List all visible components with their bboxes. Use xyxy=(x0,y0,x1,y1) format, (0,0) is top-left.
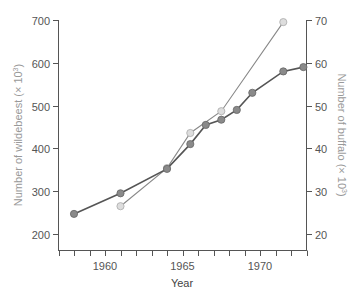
buffalo-marker xyxy=(187,129,194,136)
axes xyxy=(58,20,307,251)
y-left-tick-label: 500 xyxy=(32,101,50,113)
y-left-tick-label: 600 xyxy=(32,58,50,70)
y-left-tick-label: 400 xyxy=(32,143,50,155)
x-ticks: 196019651970 xyxy=(60,251,308,273)
wildebeest-marker xyxy=(249,89,256,96)
x-tick-label: 1960 xyxy=(93,260,117,272)
y-right-tick-label: 60 xyxy=(315,58,327,70)
wildebeest-marker xyxy=(187,141,194,148)
y-left-tick-label: 200 xyxy=(32,229,50,241)
wildebeest-marker xyxy=(202,121,209,128)
y-right-tick-label: 50 xyxy=(315,101,327,113)
wildebeest-marker xyxy=(70,210,77,217)
x-tick-label: 1970 xyxy=(248,260,272,272)
y-left-axis-title: Number of wildebeest (× 103) xyxy=(12,64,24,206)
wildebeest-marker xyxy=(300,64,307,71)
buffalo-line xyxy=(121,22,284,206)
y-right-axis-title-close: ) xyxy=(336,193,348,197)
series-layer xyxy=(70,19,307,218)
y-right-tick-label: 70 xyxy=(315,15,327,27)
y-right-axis-title: Number of buffalo (× 103) xyxy=(336,73,348,196)
y-left-ticks: 200300400500600700 xyxy=(32,15,59,241)
y-right-tick-label: 20 xyxy=(315,229,327,241)
y-right-tick-label: 40 xyxy=(315,143,327,155)
y-left-tick-label: 300 xyxy=(32,186,50,198)
wildebeest-marker xyxy=(218,116,225,123)
wildebeest-marker xyxy=(163,165,170,172)
series-wildebeest xyxy=(70,64,307,218)
y-left-tick-label: 700 xyxy=(32,15,50,27)
y-right-axis-title-main: Number of buffalo (× 10 xyxy=(336,73,348,189)
population-chart: 196019651970 200300400500600700 20304050… xyxy=(0,0,356,296)
y-right-ticks: 203040506070 xyxy=(307,15,328,241)
y-left-axis-title-close: ) xyxy=(12,64,24,68)
wildebeest-marker xyxy=(233,106,240,113)
wildebeest-marker xyxy=(280,68,287,75)
buffalo-marker xyxy=(280,19,287,26)
wildebeest-marker xyxy=(117,190,124,197)
x-axis-title: Year xyxy=(171,277,194,289)
y-right-tick-label: 30 xyxy=(315,186,327,198)
buffalo-marker xyxy=(117,203,124,210)
y-left-axis-title-main: Number of wildebeest (× 10 xyxy=(12,71,24,206)
x-tick-label: 1965 xyxy=(170,260,194,272)
buffalo-marker xyxy=(218,108,225,115)
